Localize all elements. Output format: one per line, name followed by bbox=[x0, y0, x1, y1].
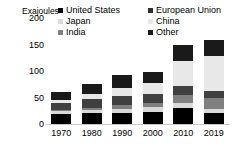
segment-united-states-1980 bbox=[82, 113, 102, 124]
segment-other-1980 bbox=[82, 84, 102, 94]
segment-other-2010 bbox=[173, 45, 193, 61]
segment-other-2019 bbox=[204, 40, 224, 55]
segment-united-states-1970 bbox=[51, 114, 71, 124]
y-axis-tick-labels: 200150100500 bbox=[0, 0, 44, 149]
legend-item-united-states: United States bbox=[58, 5, 120, 16]
segment-united-states-1990 bbox=[112, 113, 132, 124]
segment-other-1990 bbox=[112, 75, 132, 88]
y-tick-100: 100 bbox=[29, 66, 44, 76]
segment-other-2000 bbox=[143, 72, 163, 83]
segment-india-2019 bbox=[204, 98, 224, 109]
plot-area bbox=[46, 18, 229, 124]
segment-united-states-2019 bbox=[204, 113, 224, 124]
bar-1970 bbox=[51, 92, 71, 124]
segment-china-2010 bbox=[173, 61, 193, 86]
x-axis-line bbox=[46, 124, 230, 125]
segment-european-union-2000 bbox=[143, 94, 163, 103]
bar-1980 bbox=[82, 84, 102, 124]
legend-item-european-union: European Union bbox=[148, 5, 221, 16]
segment-european-union-2010 bbox=[173, 86, 193, 94]
y-tick-50: 50 bbox=[34, 93, 44, 103]
segment-united-states-2000 bbox=[143, 112, 163, 124]
legend-label-united-states: United States bbox=[66, 6, 120, 15]
x-tick-2019: 2019 bbox=[194, 128, 234, 138]
y-tick-150: 150 bbox=[29, 40, 44, 50]
segment-china-2000 bbox=[143, 83, 163, 94]
segment-china-2019 bbox=[204, 56, 224, 91]
segment-united-states-2010 bbox=[173, 108, 193, 124]
y-tick-200: 200 bbox=[29, 13, 44, 23]
segment-european-union-1990 bbox=[112, 96, 132, 105]
segment-china-1990 bbox=[112, 88, 132, 96]
bar-1990 bbox=[112, 75, 132, 124]
segment-india-2010 bbox=[173, 95, 193, 103]
legend-swatch-european-union bbox=[148, 8, 153, 13]
legend-label-european-union: European Union bbox=[156, 6, 221, 15]
bar-2010 bbox=[173, 45, 193, 124]
stacked-bar-chart: United States Japan India European Union… bbox=[0, 0, 234, 149]
segment-other-1970 bbox=[51, 92, 71, 99]
bar-2019 bbox=[204, 40, 224, 124]
segment-european-union-2019 bbox=[204, 91, 224, 98]
segment-european-union-1980 bbox=[82, 99, 102, 107]
segment-european-union-1970 bbox=[51, 103, 71, 110]
bar-2000 bbox=[143, 72, 163, 124]
